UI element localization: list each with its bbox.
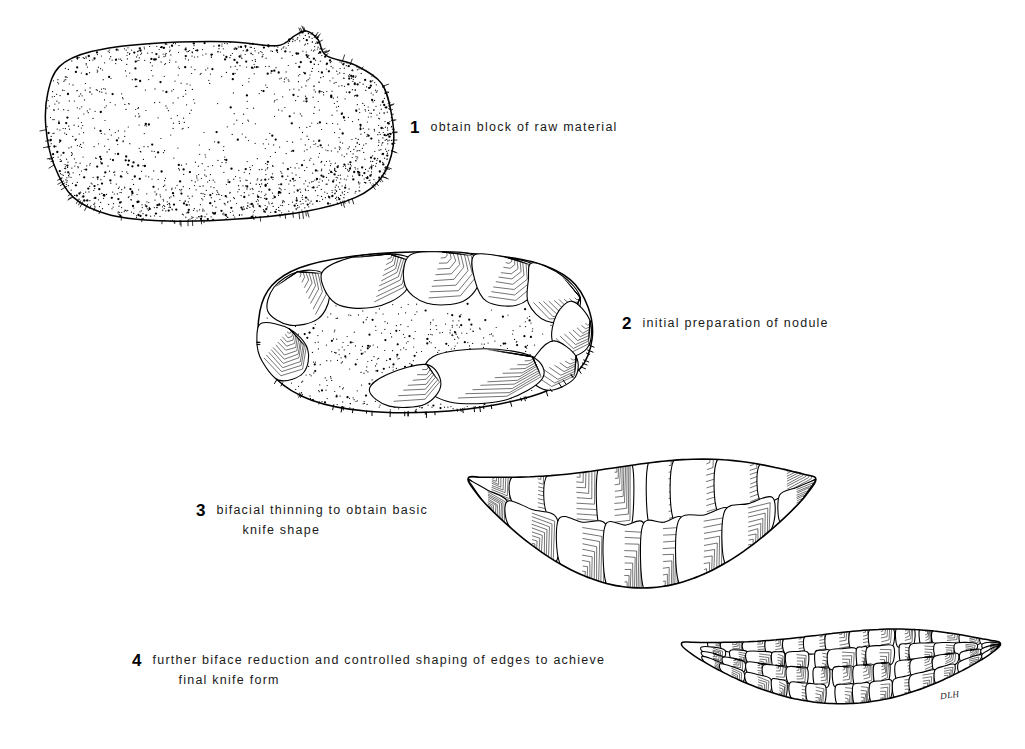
caption-line-1: bifacial thinning to obtain basic — [216, 503, 428, 517]
caption-line-1: obtain block of raw material — [430, 120, 617, 134]
caption-body: obtain block of raw material — [430, 117, 617, 137]
caption-number: 4 — [132, 650, 141, 673]
illustration-finished-knife — [676, 618, 1006, 728]
illustration-prepared-nodule — [238, 246, 608, 418]
caption-body: initial preparation of nodule — [642, 313, 828, 333]
caption-number: 2 — [622, 313, 631, 336]
lithic-reduction-figure: 1 obtain block of raw material 2 initial… — [0, 0, 1025, 749]
caption-number: 3 — [196, 500, 205, 523]
caption-stage-2: 2 initial preparation of nodule — [622, 313, 829, 336]
caption-stage-3: 3 bifacial thinning to obtain basic knif… — [196, 500, 428, 540]
illustration-raw-stone-nodule — [30, 22, 405, 227]
illustration-thinned-biface-preform — [462, 444, 822, 594]
caption-line-2: final knife form — [152, 673, 279, 687]
caption-stage-4: 4 further biface reduction and controlle… — [132, 650, 605, 690]
caption-stage-1: 1 obtain block of raw material — [410, 117, 618, 140]
caption-line-1: further biface reduction and controlled … — [152, 653, 605, 667]
caption-body: further biface reduction and controlled … — [152, 650, 605, 690]
caption-body: bifacial thinning to obtain basic knife … — [216, 500, 428, 540]
caption-line-1: initial preparation of nodule — [642, 316, 828, 330]
caption-number: 1 — [410, 117, 419, 140]
caption-line-2: knife shape — [216, 523, 320, 537]
